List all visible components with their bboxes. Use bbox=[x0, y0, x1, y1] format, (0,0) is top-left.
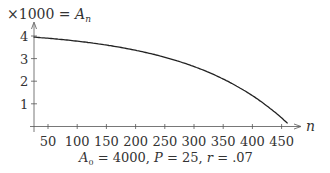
x-tick-label: 200 bbox=[123, 134, 148, 149]
x-tick-label: 450 bbox=[269, 134, 294, 149]
x-tick-label: 50 bbox=[40, 134, 57, 149]
y-tick-label: 1 bbox=[20, 97, 28, 112]
x-tick-label: 150 bbox=[94, 134, 119, 149]
x-tick-label: 250 bbox=[152, 134, 177, 149]
x-tick-label: 100 bbox=[65, 134, 90, 149]
x-tick-label: 350 bbox=[211, 134, 236, 149]
x-tick-label: 300 bbox=[182, 134, 207, 149]
x-axis-label: n bbox=[306, 118, 315, 134]
y-ticks: 4 3 2 1 bbox=[20, 29, 37, 112]
y-axis-label: ×1000 = An bbox=[7, 6, 91, 24]
chart: ×1000 = An n 4 3 2 1 50 100 150 200 250 … bbox=[0, 0, 330, 173]
x-tick-labels: 50 100 150 200 250 300 350 400 450 bbox=[40, 134, 294, 149]
y-tick-label: 3 bbox=[20, 52, 28, 67]
x-tick-label: 400 bbox=[240, 134, 265, 149]
y-tick-label: 4 bbox=[20, 29, 28, 44]
data-line bbox=[34, 37, 288, 123]
caption: A0 = 4000, P = 25, r = .07 bbox=[78, 150, 253, 167]
y-tick-label: 2 bbox=[20, 74, 28, 89]
